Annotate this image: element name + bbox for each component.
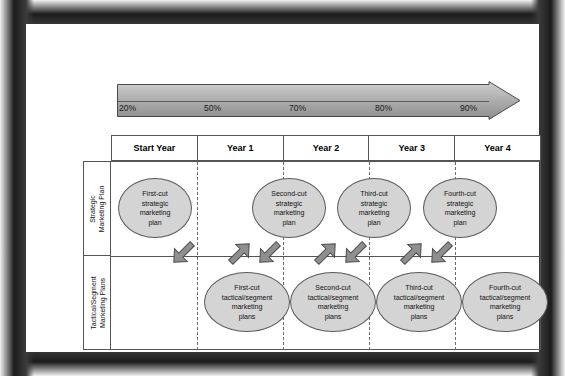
cascade-arrow-icon-2 — [255, 238, 283, 268]
node-line-3: marketing — [232, 303, 263, 310]
column-header-year-1: Year 1 — [198, 136, 284, 160]
node-line-1: First-cut — [234, 284, 259, 291]
row-label-column: Strategic Marketing Plan Tactical/Segmen… — [84, 162, 111, 349]
column-header-label: Year 4 — [484, 143, 511, 153]
node-line-4: plans — [325, 313, 342, 320]
node-line-3: marketing — [490, 303, 521, 310]
node-line-4: plans — [239, 313, 256, 320]
column-header-label: Year 3 — [399, 143, 426, 153]
cascade-arrow-icon-3 — [341, 238, 369, 268]
node-tactical-fourth-cut[interactable]: Fourth-cut tactical/segment marketing pl… — [462, 272, 548, 332]
column-header-label: Year 1 — [227, 143, 254, 153]
clarity-percent-0: 20% — [119, 103, 136, 113]
node-line-1: First-cut — [142, 190, 167, 197]
node-line-3: marketing — [140, 209, 171, 216]
node-line-4: plan — [453, 219, 466, 226]
clarity-percent-3: 80% — [375, 103, 392, 113]
column-header-year-3: Year 3 — [369, 136, 455, 160]
feedback-arrow-icon-1 — [226, 238, 254, 268]
node-line-2: tactical/segment — [308, 294, 359, 301]
node-line-3: marketing — [445, 209, 476, 216]
clarity-percent-4: 90% — [460, 103, 477, 113]
cascade-arrow-icon-4 — [427, 238, 455, 268]
feedback-arrow-icon-2 — [312, 238, 340, 268]
column-header-start-year: Start Year — [112, 136, 198, 160]
node-line-2: tactical/segment — [480, 294, 531, 301]
column-header-year-2: Year 2 — [284, 136, 370, 160]
column-header-year-4: Year 4 — [455, 136, 540, 160]
clarity-percent-1: 50% — [204, 103, 221, 113]
node-strategic-fourth-cut[interactable]: Fourth-cut strategic marketing plan — [423, 178, 497, 238]
node-tactical-third-cut[interactable]: Third-cut tactical/segment marketing pla… — [376, 272, 462, 332]
row-label-strategic-marketing-plan: Strategic Marketing Plan — [84, 162, 111, 256]
diagram-screenshot: INCREASING CLARITY 20% 50% 70% 80% 90% S… — [0, 0, 565, 376]
node-line-4: plans — [411, 313, 428, 320]
node-line-4: plan — [148, 219, 161, 226]
node-strategic-third-cut[interactable]: Third-cut strategic marketing plan — [337, 178, 411, 238]
row-label-line-2: Marketing Plan — [99, 185, 106, 232]
feedback-arrow-icon-3 — [398, 238, 426, 268]
node-line-1: Fourth-cut — [489, 284, 521, 291]
row-label-line-2: Marketing Plans — [99, 278, 106, 328]
node-line-3: marketing — [359, 209, 390, 216]
node-line-1: Second-cut — [271, 190, 306, 197]
node-strategic-second-cut[interactable]: Second-cut strategic marketing plan — [252, 178, 326, 238]
node-line-2: strategic — [142, 200, 168, 207]
row-label-line-1: Strategic — [90, 195, 97, 223]
node-line-2: tactical/segment — [222, 294, 273, 301]
node-line-4: plan — [282, 219, 295, 226]
column-header-label: Start Year — [133, 143, 175, 153]
node-line-2: tactical/segment — [394, 294, 445, 301]
node-line-2: strategic — [361, 200, 387, 207]
column-header-label: Year 2 — [313, 143, 340, 153]
matrix-body: Strategic Marketing Plan Tactical/Segmen… — [83, 161, 541, 350]
diagram-page: INCREASING CLARITY 20% 50% 70% 80% 90% S… — [26, 24, 539, 352]
node-line-1: Second-cut — [315, 284, 350, 291]
node-line-2: strategic — [447, 200, 473, 207]
cascade-arrow-icon-1 — [169, 238, 197, 268]
clarity-percent-2: 70% — [289, 103, 306, 113]
node-line-4: plan — [367, 219, 380, 226]
row-label-line-1: Tactical/Segment — [90, 276, 97, 329]
node-line-1: Third-cut — [405, 284, 433, 291]
node-line-1: Third-cut — [360, 190, 388, 197]
node-line-3: marketing — [404, 303, 435, 310]
node-strategic-first-cut[interactable]: First-cut strategic marketing plan — [118, 178, 192, 238]
node-line-4: plans — [497, 313, 514, 320]
clarity-percentage-scale: 20% 50% 70% 80% 90% — [117, 102, 489, 116]
node-line-2: strategic — [276, 200, 302, 207]
node-tactical-second-cut[interactable]: Second-cut tactical/segment marketing pl… — [290, 272, 376, 332]
node-tactical-first-cut[interactable]: First-cut tactical/segment marketing pla… — [204, 272, 290, 332]
node-line-3: marketing — [318, 303, 349, 310]
dashed-divider-1 — [197, 162, 198, 350]
row-label-tactical-segment-marketing-plans: Tactical/Segment Marketing Plans — [84, 256, 111, 350]
year-header-row: Start Year Year 1 Year 2 Year 3 Year 4 — [111, 135, 541, 161]
node-line-3: marketing — [274, 209, 305, 216]
planning-matrix: Start Year Year 1 Year 2 Year 3 Year 4 — [83, 135, 541, 350]
node-line-1: Fourth-cut — [444, 190, 476, 197]
